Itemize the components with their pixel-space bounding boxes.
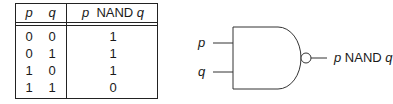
nand-gate-body-icon (233, 27, 301, 89)
output-label-q: q (385, 50, 392, 65)
output-label-p: p (334, 50, 341, 65)
input-p-label: p (198, 36, 205, 50)
output-label-op: NAND (345, 50, 382, 65)
inversion-bubble-icon (301, 53, 311, 63)
input-q-label: q (198, 65, 205, 79)
output-label: p NAND q (334, 51, 393, 65)
